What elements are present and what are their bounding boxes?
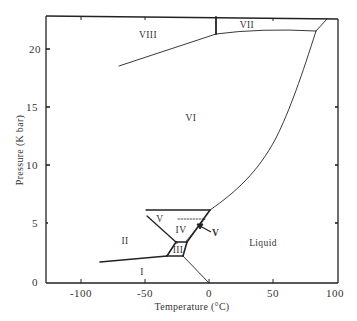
- y-axis-title: Pressure (K bar): [14, 115, 26, 185]
- y-tick-label: 5: [32, 217, 38, 229]
- vi-liquid-boundary: [210, 31, 316, 210]
- y-ticks: [46, 49, 338, 223]
- region-label-ii: II: [121, 236, 128, 246]
- vii-vi-boundary: [216, 30, 316, 34]
- x-tick-label: 50: [267, 287, 279, 299]
- plot-frame: [46, 16, 338, 283]
- region-label-vi: VI: [186, 113, 197, 123]
- vii-liquid-boundary: [316, 19, 327, 31]
- x-tick-label: -100: [70, 287, 92, 299]
- y-tick-label: 20: [29, 43, 41, 55]
- region-label-iv: IV: [176, 225, 187, 235]
- y-tick-label: 0: [32, 276, 38, 288]
- x-axis-title: Temperature (°C): [154, 301, 229, 313]
- phase-diagram: -100 -50 0 50 100 0 5 10 15 20 Temperatu…: [0, 0, 357, 321]
- x-tick-label: 100: [326, 287, 344, 299]
- region-label-v: V: [156, 214, 163, 224]
- i-ii-boundary: [100, 256, 167, 262]
- top-border: [46, 16, 338, 19]
- v-arrow: [197, 224, 211, 232]
- y-tick-label: 15: [26, 101, 38, 113]
- viii-vi-boundary: [119, 34, 216, 66]
- x-tick-label: -50: [137, 287, 153, 299]
- i-liquid-boundary: [183, 256, 209, 283]
- region-label-vii: VII: [240, 20, 254, 30]
- phase-boundaries: [100, 17, 327, 283]
- iii-liquid-boundary: [183, 242, 187, 256]
- region-label-iii: III: [173, 245, 184, 255]
- region-label-liquid: Liquid: [249, 238, 277, 248]
- v-arrow-label: V: [212, 228, 219, 238]
- region-label-i: I: [140, 267, 144, 277]
- x-tick-label: 0: [206, 287, 212, 299]
- region-label-viii: VIII: [139, 30, 157, 40]
- y-tick-label: 10: [26, 159, 38, 171]
